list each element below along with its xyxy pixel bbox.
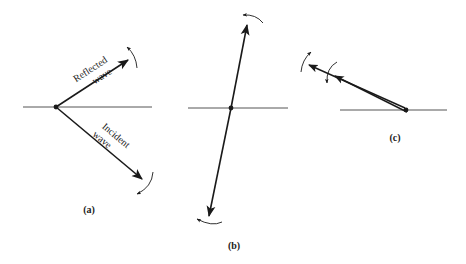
rotation-arc-icon: [127, 47, 137, 68]
panel-a: Reflected wave Incident wave (a): [23, 47, 153, 216]
rotation-arc-icon: [301, 52, 311, 72]
origin-dot: [404, 108, 409, 113]
panel-c-caption: (c): [389, 132, 400, 144]
downward-wave-arrow: [209, 108, 231, 216]
rotation-arc-icon: [137, 172, 153, 194]
origin-dot: [229, 106, 234, 111]
rotation-arc-icon: [243, 15, 263, 23]
panel-c: (c): [301, 52, 447, 144]
upward-wave-arrow: [231, 25, 247, 108]
wave-reflection-diagram: Reflected wave Incident wave (a) (b) (c): [0, 0, 466, 264]
rotation-arc-icon: [327, 62, 337, 83]
inner-wave-arrow: [335, 76, 407, 112]
panel-b: (b): [188, 15, 288, 252]
panel-a-caption: (a): [83, 204, 95, 216]
diagram-canvas: Reflected wave Incident wave (a) (b) (c): [0, 0, 466, 264]
origin-dot: [54, 105, 59, 110]
panel-b-caption: (b): [228, 240, 240, 252]
rotation-arc-icon: [197, 219, 222, 224]
